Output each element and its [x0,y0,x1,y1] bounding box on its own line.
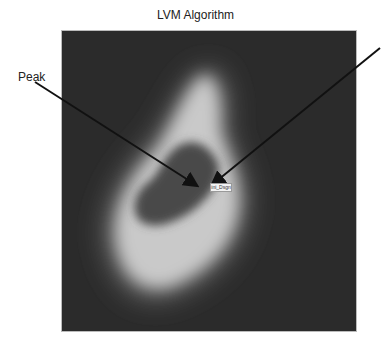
peak-arrow [35,82,196,185]
marker-arrow [213,48,380,184]
annotation-arrows [0,0,391,347]
marker-tag: ini_Dsgn [210,183,232,192]
